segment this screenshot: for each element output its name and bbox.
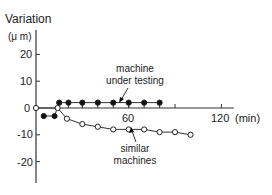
- open-marker: [172, 130, 177, 135]
- y-tick-label-10: 10: [20, 76, 32, 87]
- y-tick-label-20: 20: [20, 49, 32, 60]
- annotation-machine-line1: machine: [105, 64, 165, 74]
- annotation-arrow-similar: [132, 131, 136, 142]
- open-marker: [95, 124, 100, 129]
- open-marker: [157, 130, 162, 135]
- open-marker: [80, 121, 85, 126]
- open-marker: [188, 132, 193, 137]
- filled-marker: [157, 100, 162, 105]
- y-tick-label-0: 0: [24, 103, 30, 114]
- open-marker: [111, 127, 116, 132]
- open-marker: [55, 105, 60, 110]
- open-marker: [33, 105, 38, 110]
- filled-marker: [52, 113, 57, 118]
- y-axis-title: Variation: [5, 13, 51, 25]
- filled-marker: [41, 113, 46, 118]
- filled-marker: [142, 100, 147, 105]
- annotation-similar-line1: similar: [110, 144, 160, 154]
- x-axis-unit: (min): [235, 113, 260, 124]
- open-marker: [64, 116, 69, 121]
- annotation-similar-line2: machines: [108, 156, 162, 166]
- y-tick-label-minus-20: -20: [17, 157, 33, 168]
- filled-marker: [57, 100, 62, 105]
- open-marker: [142, 127, 147, 132]
- y-axis-unit: (μ m): [8, 32, 32, 42]
- y-tick-label-minus-10: -10: [17, 129, 33, 140]
- data-series: [33, 100, 193, 137]
- filled-marker: [66, 100, 71, 105]
- x-tick-label-120: 120: [211, 113, 229, 124]
- x-tick-label-60: 60: [122, 113, 134, 124]
- filled-marker: [126, 100, 131, 105]
- annotation-machine-line2: under testing: [97, 76, 173, 86]
- filled-marker: [80, 100, 85, 105]
- filled-marker: [111, 100, 116, 105]
- filled-marker: [95, 100, 100, 105]
